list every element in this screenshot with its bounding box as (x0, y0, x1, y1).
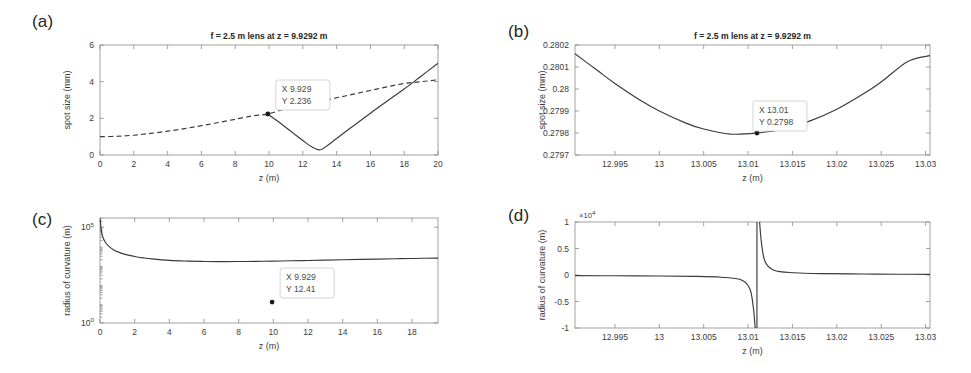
x-tick-label: 0 (98, 159, 103, 169)
series-group (100, 220, 438, 262)
panel-d-plot: 12.9951313.00513.0113.01513.0213.02513.0… (490, 190, 971, 373)
y-tick-label: -1 (561, 323, 569, 333)
x-tick-label: 12.995 (602, 159, 628, 169)
x-tick-label: 13.015 (779, 332, 805, 342)
x-tick-label: 10 (269, 327, 279, 337)
x-tick-label: 13.03 (915, 159, 937, 169)
y-tick-label: 0.2802 (543, 40, 569, 50)
data-curve (100, 80, 438, 137)
series-group (575, 222, 930, 328)
datatip-x-value: X 9.929 (286, 272, 316, 282)
x-tick-label: 6 (202, 327, 207, 337)
panel-a-plot: 024681012141618200246f = 2.5 m lens at z… (0, 0, 490, 190)
datatip[interactable]: X 9.929Y 2.236 (276, 80, 330, 110)
data-curve (575, 54, 930, 135)
x-tick-label: 4 (165, 159, 170, 169)
x-tick-label: 13.01 (737, 159, 759, 169)
x-axis-label: z (m) (742, 173, 763, 183)
y-tick-label: 0 (89, 150, 94, 160)
panel-a: (a) 024681012141618200246f = 2.5 m lens … (0, 0, 490, 190)
datatip-y-value: Y 2.236 (282, 96, 312, 106)
x-tick-label: 13.025 (868, 332, 894, 342)
x-tick-label: 13.015 (779, 159, 805, 169)
datatip-marker[interactable] (265, 112, 270, 117)
y-tick-label: 105 (81, 221, 94, 233)
data-curve (760, 222, 930, 274)
panel-c-plot: 024681012141618100105z (m)radius of curv… (0, 190, 490, 373)
datatip[interactable]: X 9.929Y 12.41 (280, 268, 334, 298)
datatip-marker[interactable] (270, 300, 275, 305)
panel-d: (d) 12.9951313.00513.0113.01513.0213.025… (490, 190, 971, 373)
x-tick-label: 2 (132, 327, 137, 337)
x-tick-label: 14 (338, 327, 348, 337)
y-tick-label: 0.28 (552, 84, 569, 94)
y-tick-label: 2 (89, 113, 94, 123)
panel-d-tag: (d) (508, 206, 529, 226)
y-axis-label: spot size (mm) (537, 70, 547, 129)
plot-frame (575, 222, 930, 328)
y-axis-multiplier: ×104 (579, 209, 596, 220)
x-tick-label: 18 (407, 327, 417, 337)
x-tick-label: 14 (332, 159, 342, 169)
panel-c-tag: (c) (32, 210, 52, 230)
x-tick-label: 12.995 (602, 332, 628, 342)
data-curve (575, 276, 755, 328)
panel-a-tag: (a) (32, 12, 53, 32)
x-tick-label: 13 (655, 159, 665, 169)
x-tick-label: 13.02 (826, 159, 848, 169)
x-tick-label: 10 (264, 159, 274, 169)
x-tick-label: 18 (399, 159, 409, 169)
x-tick-label: 13.025 (868, 159, 894, 169)
panel-b-plot: 12.9951313.00513.0113.01513.0213.02513.0… (490, 0, 971, 190)
x-tick-label: 6 (199, 159, 204, 169)
plot-frame (100, 45, 438, 155)
y-axis-label: spot size (mm) (62, 70, 72, 129)
x-tick-label: 13.005 (691, 159, 717, 169)
datatip-x-value: X 9.929 (282, 84, 312, 94)
datatip[interactable]: X 13.01Y 0.2798 (753, 101, 807, 131)
y-tick-label: 1 (564, 217, 569, 227)
datatip-y-value: Y 0.2798 (759, 117, 793, 127)
y-tick-label: 0 (564, 270, 569, 280)
x-tick-label: 13.03 (915, 332, 937, 342)
y-tick-label: 0.5 (557, 244, 569, 254)
plot-frame (575, 45, 930, 155)
plot-frame (100, 218, 438, 323)
x-tick-label: 13.01 (737, 332, 759, 342)
datatip-x-value: X 13.01 (759, 105, 789, 115)
series-group (575, 54, 930, 135)
x-tick-label: 13 (655, 332, 665, 342)
y-tick-label: 4 (89, 77, 94, 87)
datatip-y-value: Y 12.41 (286, 284, 316, 294)
data-curve (100, 220, 438, 262)
series-group (100, 63, 438, 150)
x-tick-label: 2 (131, 159, 136, 169)
x-axis-label: z (m) (742, 346, 763, 356)
plot-title: f = 2.5 m lens at z = 9.9292 m (210, 31, 327, 41)
x-axis-label: z (m) (259, 341, 280, 351)
x-tick-label: 12 (303, 327, 313, 337)
y-tick-label: 0.2797 (543, 150, 569, 160)
x-tick-label: 16 (373, 327, 383, 337)
panel-b: (b) 12.9951313.00513.0113.01513.0213.025… (490, 0, 971, 190)
x-tick-label: 12 (298, 159, 308, 169)
x-tick-label: 0 (98, 327, 103, 337)
plot-title: f = 2.5 m lens at z = 9.9292 m (694, 31, 811, 41)
y-axis-label: radius of curvature (m) (62, 225, 72, 316)
y-tick-label: -0.5 (554, 297, 569, 307)
x-tick-label: 4 (167, 327, 172, 337)
panel-c: (c) 024681012141618100105z (m)radius of … (0, 190, 490, 373)
x-tick-label: 13.02 (826, 332, 848, 342)
x-axis-label: z (m) (259, 173, 280, 183)
x-tick-label: 16 (366, 159, 376, 169)
x-tick-label: 8 (233, 159, 238, 169)
y-tick-label: 100 (81, 316, 94, 328)
y-tick-label: 6 (89, 40, 94, 50)
figure-container: (a) 024681012141618200246f = 2.5 m lens … (0, 0, 971, 373)
x-tick-label: 13.005 (691, 332, 717, 342)
y-axis-label: radius of curvature (m) (537, 230, 547, 321)
x-tick-label: 8 (236, 327, 241, 337)
x-tick-label: 20 (433, 159, 443, 169)
panel-b-tag: (b) (508, 22, 529, 42)
